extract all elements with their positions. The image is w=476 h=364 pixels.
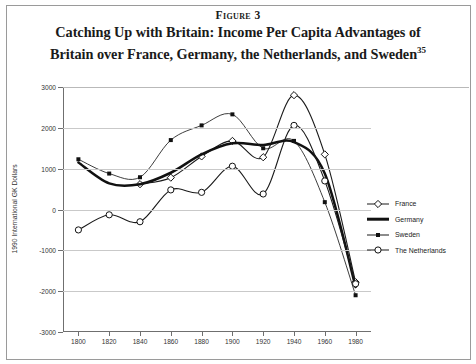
series-line [78, 114, 355, 296]
x-tick-label: 1820 [102, 338, 117, 345]
gridline [63, 210, 371, 211]
filled-square-marker [323, 200, 327, 204]
open-circle-marker [353, 281, 359, 287]
x-tick [78, 332, 79, 336]
open-circle-icon [373, 245, 383, 255]
series-line [78, 141, 355, 288]
filled-square-marker [354, 293, 358, 297]
y-tick [58, 250, 63, 251]
x-tick-label: 1980 [348, 338, 363, 345]
open-diamond-marker [290, 92, 297, 99]
plot-region: 3000200010000-1000-2000-3000 18001820184… [63, 87, 371, 332]
filled-square-marker [376, 233, 380, 237]
figure-footnote-marker: 35 [417, 45, 426, 55]
y-tick-label: -1000 [39, 247, 56, 254]
gridline [63, 250, 371, 251]
y-tick [58, 169, 63, 170]
legend-swatch [366, 198, 390, 210]
y-tick [58, 291, 63, 292]
legend-label: France [395, 200, 416, 207]
legend-item-germany[interactable]: Germany [366, 212, 470, 228]
open-circle-marker [322, 178, 328, 184]
x-tick [356, 332, 357, 336]
filled-square-marker [138, 175, 142, 179]
open-circle-marker [106, 212, 112, 218]
legend-item-the-netherlands[interactable]: The Netherlands [366, 243, 470, 259]
y-tick [58, 332, 63, 333]
filled-square-icon [373, 230, 383, 240]
y-tick-label: 0 [52, 206, 56, 213]
y-tick-label: 2000 [41, 124, 56, 131]
figure-page: Figure 3 Catching Up with Britain: Incom… [0, 0, 476, 364]
y-tick-label: -3000 [39, 329, 56, 336]
y-tick [58, 128, 63, 129]
open-circle-marker [75, 227, 81, 233]
y-axis-title: 1990 International GK Dollars [11, 164, 18, 253]
x-tick [263, 332, 264, 336]
x-tick [171, 332, 172, 336]
legend-swatch [366, 229, 390, 241]
open-diamond-icon [373, 199, 383, 209]
open-circle-marker [375, 247, 381, 253]
chart-area: 1990 International GK Dollars 3000200010… [0, 72, 476, 364]
x-tick-label: 1920 [256, 338, 271, 345]
open-diamond-marker [374, 200, 381, 207]
y-tick-label: 3000 [41, 84, 56, 91]
x-tick-label: 1940 [287, 338, 302, 345]
gridline [63, 291, 371, 292]
x-tick [232, 332, 233, 336]
legend-label: Sweden [395, 231, 420, 238]
legend-label: The Netherlands [395, 247, 446, 254]
x-tick-label: 1900 [225, 338, 240, 345]
open-diamond-marker [321, 151, 328, 158]
x-tick-label: 1800 [71, 338, 86, 345]
figure-title-line2: Britain over France, Germany, the Nether… [50, 45, 417, 61]
figure-title: Catching Up with Britain: Income Per Cap… [14, 24, 462, 63]
y-tick-label: 1000 [41, 165, 56, 172]
legend-label: Germany [395, 216, 423, 223]
legend-item-sweden[interactable]: Sweden [366, 227, 470, 243]
open-circle-marker [199, 189, 205, 195]
series-sweden [76, 112, 357, 297]
filled-square-marker [230, 112, 234, 116]
open-circle-marker [260, 191, 266, 197]
x-tick-label: 1840 [133, 338, 148, 345]
filled-square-marker [292, 139, 296, 143]
open-circle-marker [137, 219, 143, 225]
open-circle-marker [168, 187, 174, 193]
series-germany [78, 141, 355, 288]
legend-swatch [366, 244, 390, 256]
x-tick [202, 332, 203, 336]
x-tick [294, 332, 295, 336]
x-tick [140, 332, 141, 336]
filled-square-marker [200, 123, 204, 127]
x-tick-label: 1880 [194, 338, 209, 345]
x-tick [325, 332, 326, 336]
x-tick-label: 1860 [163, 338, 178, 345]
filled-square-marker [76, 157, 80, 161]
x-tick [109, 332, 110, 336]
gridline [63, 128, 371, 129]
figure-label: Figure 3 [0, 9, 476, 21]
chart-legend: FranceGermanySwedenThe Netherlands [366, 196, 470, 258]
gridline [63, 87, 469, 88]
x-tick-label: 1960 [317, 338, 332, 345]
gridline [63, 169, 371, 170]
filled-square-marker [169, 138, 173, 142]
y-tick [58, 87, 63, 88]
filled-square-marker [261, 146, 265, 150]
legend-item-france[interactable]: France [366, 196, 470, 212]
y-tick [58, 210, 63, 211]
figure-title-line1: Catching Up with Britain: Income Per Cap… [55, 24, 420, 40]
filled-square-marker [107, 172, 111, 176]
y-tick-label: -2000 [39, 288, 56, 295]
legend-swatch [366, 213, 390, 225]
